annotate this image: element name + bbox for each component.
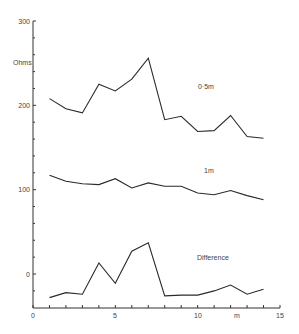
series-line-1m (50, 175, 264, 200)
y-tick-label-0: 0 (26, 271, 30, 278)
y-axis-title: Ohms (13, 59, 32, 66)
series-label-0-5m: 0·5m (198, 83, 214, 90)
series-line-0-5m (50, 58, 264, 138)
series-label-1m: 1m (204, 167, 214, 174)
x-tick-label-10: 10 (194, 312, 202, 319)
x-tick-label-5: 5 (113, 312, 117, 319)
y-tick-label-100: 100 (18, 186, 30, 193)
x-tick-label-0: 0 (31, 312, 35, 319)
y-tick-label-200: 200 (18, 102, 30, 109)
series-label-difference: Difference (197, 254, 229, 261)
series-line-difference (50, 243, 264, 298)
line-chart: 300 200 100 0 0 5 10 15 Ohms m 0·5m 1m D… (0, 0, 299, 334)
x-tick-label-15: 15 (276, 312, 284, 319)
x-axis-title: m (234, 312, 240, 319)
y-tick-label-300: 300 (18, 18, 30, 25)
